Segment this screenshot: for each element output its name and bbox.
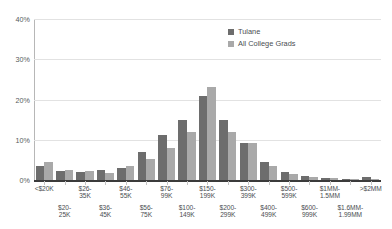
legend-label: All College Grads	[238, 39, 296, 48]
chart-legend: Tulane All College Grads	[228, 27, 296, 51]
bar	[371, 179, 380, 180]
bar	[138, 152, 147, 180]
bar-group	[197, 19, 217, 180]
x-label-column: >$2MM	[361, 185, 381, 229]
bar-group	[95, 19, 115, 180]
bar-group	[75, 19, 95, 180]
bar	[76, 172, 85, 180]
legend-label: Tulane	[238, 27, 260, 36]
legend-item-tulane: Tulane	[228, 27, 296, 36]
bar	[260, 162, 269, 180]
bar	[342, 179, 351, 180]
bar	[178, 120, 187, 180]
bar	[350, 179, 359, 180]
bar	[36, 166, 45, 180]
bar	[105, 173, 114, 180]
bar	[56, 171, 65, 180]
bar	[85, 171, 94, 180]
bar	[187, 132, 196, 180]
y-axis-tick-label: 0%	[4, 176, 30, 185]
bar-group	[156, 19, 176, 180]
bar	[228, 132, 237, 180]
income-distribution-bar-chart: 0%10%20%30%40% <$20K$20- 25K$26- 35K$36-…	[0, 0, 392, 229]
bar	[289, 174, 298, 180]
bar-group	[299, 19, 319, 180]
bar	[158, 135, 167, 180]
bar	[362, 177, 371, 180]
legend-item-all-college-grads: All College Grads	[228, 39, 296, 48]
y-axis-tick-label: 40%	[4, 15, 30, 24]
y-axis-tick-label: 10%	[4, 136, 30, 145]
bar	[146, 159, 155, 180]
bar	[240, 143, 249, 180]
bar-group	[54, 19, 74, 180]
bar-group	[177, 19, 197, 180]
legend-swatch-icon	[228, 41, 234, 47]
bar-group	[361, 19, 381, 180]
x-axis-tick-label: >$2MM	[350, 185, 392, 192]
bar	[321, 178, 330, 180]
bar-group	[320, 19, 340, 180]
y-axis-tick-label: 20%	[4, 96, 30, 105]
bar	[269, 166, 278, 180]
bar	[281, 172, 290, 180]
bar	[309, 177, 318, 180]
bar	[301, 176, 310, 180]
y-axis-tick-label: 30%	[4, 55, 30, 64]
bar	[117, 168, 126, 180]
bar	[207, 87, 216, 180]
legend-swatch-icon	[228, 29, 234, 35]
x-axis-labels: <$20K$20- 25K$26- 35K$36- 45K$46- 55K$56…	[34, 185, 381, 229]
bar	[126, 166, 135, 180]
bar	[330, 178, 339, 180]
bar-group	[136, 19, 156, 180]
bar	[199, 96, 208, 180]
bar-group	[34, 19, 54, 180]
bar	[97, 170, 106, 180]
bar	[248, 143, 257, 180]
bar	[219, 120, 228, 180]
bar	[44, 162, 53, 180]
bar-group	[116, 19, 136, 180]
plot-area	[34, 19, 381, 180]
bar-group	[340, 19, 360, 180]
bar	[65, 170, 74, 180]
bar-groups	[34, 19, 381, 180]
bar	[167, 148, 176, 180]
